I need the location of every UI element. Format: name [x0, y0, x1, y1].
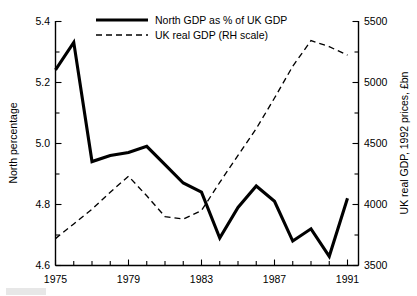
legend-label-north-gdp: North GDP as % of UK GDP — [155, 14, 287, 26]
y-axis-title: North percentage — [7, 102, 19, 183]
x-tick-label-2: 1983 — [190, 273, 214, 285]
axes-frame — [56, 21, 359, 266]
right-tick-label-1: 4000 — [364, 198, 388, 210]
x-tick-label-0: 1975 — [44, 273, 68, 285]
right-tick-label-0: 3500 — [364, 259, 388, 271]
right-axis-major-ticks — [353, 22, 359, 266]
left-tick-label-2: 5.0 — [35, 137, 50, 149]
series-line-uk-real-gdp — [56, 41, 348, 239]
y2-axis-title: UK real GDP, 1992 prices, £bn — [398, 71, 410, 214]
right-axis-tick-labels: 3500 4000 4500 5000 5500 — [364, 15, 388, 271]
series-line-north-gdp-share — [56, 42, 348, 256]
left-axis-major-ticks — [56, 22, 62, 266]
chart-canvas: 4.6 4.8 5.0 5.2 5.4 3500 4000 4500 5000 … — [0, 0, 417, 296]
bottom-axis-major-ticks — [56, 260, 348, 266]
x-tick-label-3: 1987 — [263, 273, 287, 285]
right-tick-label-3: 5000 — [364, 76, 388, 88]
left-axis-tick-labels: 4.6 4.8 5.0 5.2 5.4 — [35, 15, 50, 271]
right-tick-label-4: 5500 — [364, 15, 388, 27]
left-tick-label-3: 5.2 — [35, 76, 50, 88]
legend: North GDP as % of UK GDP UK real GDP (RH… — [96, 14, 287, 41]
left-tick-label-4: 5.4 — [35, 15, 50, 27]
left-tick-label-0: 4.6 — [35, 259, 50, 271]
figure: 4.6 4.8 5.0 5.2 5.4 3500 4000 4500 5000 … — [0, 0, 417, 296]
caption-fragment — [6, 288, 46, 295]
x-tick-label-4: 1991 — [336, 273, 360, 285]
legend-label-uk-gdp: UK real GDP (RH scale) — [155, 29, 268, 41]
bottom-axis-tick-labels: 1975 1979 1983 1987 1991 — [44, 273, 360, 285]
left-tick-label-1: 4.8 — [35, 198, 50, 210]
x-tick-label-1: 1979 — [117, 273, 141, 285]
right-tick-label-2: 4500 — [364, 137, 388, 149]
